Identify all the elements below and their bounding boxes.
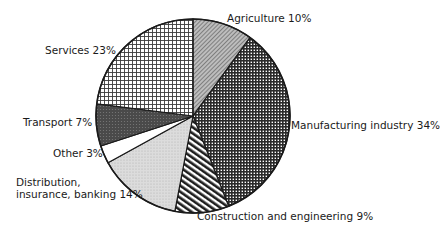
- label-other: Other 3%: [53, 147, 103, 159]
- label-distribution-line1: Distribution,: [16, 176, 81, 188]
- label-construction: Construction and engineering 9%: [197, 210, 373, 222]
- label-agriculture: Agriculture 10%: [227, 12, 311, 24]
- label-distribution-line2: insurance, banking 14%: [16, 188, 143, 200]
- pie-slice-services: [97, 19, 193, 116]
- label-manufacturing: Manufacturing industry 34%: [291, 119, 440, 131]
- label-transport: Transport 7%: [23, 116, 92, 128]
- label-services: Services 23%: [45, 44, 116, 56]
- pie-slices: [96, 19, 290, 213]
